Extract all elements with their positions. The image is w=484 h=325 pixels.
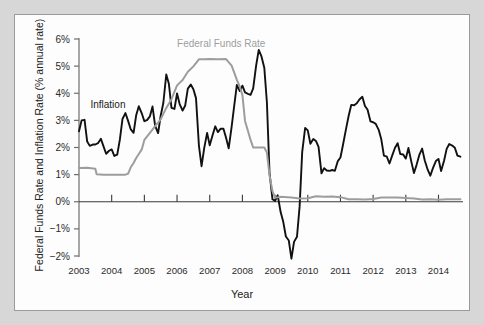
y-tick-label: 6% xyxy=(56,34,71,45)
x-tick-label: 2007 xyxy=(199,265,220,276)
x-tick-label: 2009 xyxy=(264,265,285,276)
series-line-inflation xyxy=(79,50,460,259)
x-tick-label: 2008 xyxy=(232,265,253,276)
series-annotation-federal-funds-rate: Federal Funds Rate xyxy=(177,38,266,49)
x-tick-label: 2003 xyxy=(68,265,89,276)
series-annotation-inflation: Inflation xyxy=(90,99,125,110)
line-chart-svg: 6%5%4%3%2%1%0%−1%−2% 2003200420052006200… xyxy=(15,15,471,312)
series-layer xyxy=(79,50,460,259)
x-axis-ticks: 2003200420052006200720082009201020112012… xyxy=(68,195,449,276)
x-tick-label: 2013 xyxy=(395,265,416,276)
x-tick-label: 2006 xyxy=(166,265,187,276)
y-tick-label: 4% xyxy=(56,88,71,99)
x-tick-label: 2012 xyxy=(362,265,383,276)
x-tick-label: 2010 xyxy=(297,265,318,276)
y-tick-label: 3% xyxy=(56,115,71,126)
y-axis-ticks: 6%5%4%3%2%1%0%−1%−2% xyxy=(50,34,79,262)
series-line-federal-funds-rate xyxy=(79,59,460,200)
y-tick-label: 2% xyxy=(56,142,71,153)
x-tick-label: 2011 xyxy=(330,265,351,276)
y-tick-label: −2% xyxy=(50,251,70,262)
y-tick-label: 0% xyxy=(56,196,71,207)
x-tick-label: 2005 xyxy=(134,265,155,276)
y-tick-label: 1% xyxy=(56,169,71,180)
y-tick-label: 5% xyxy=(56,61,71,72)
chart-panel: Federal Funds Rate and Inflation Rate (%… xyxy=(14,14,470,311)
y-tick-label: −1% xyxy=(50,223,70,234)
x-tick-label: 2004 xyxy=(101,265,123,276)
x-tick-label: 2014 xyxy=(428,265,450,276)
